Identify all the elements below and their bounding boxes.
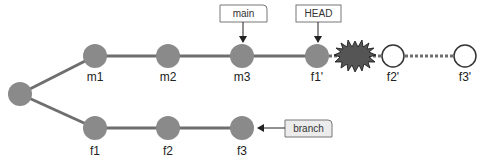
label-m1: m1 xyxy=(87,70,104,84)
ref-tag-head: HEAD xyxy=(296,5,341,42)
commit-root xyxy=(8,82,32,106)
ref-tag-branch: branch xyxy=(258,120,332,137)
commit-f3-prime-pending xyxy=(454,45,476,67)
commit-f2-prime-pending xyxy=(382,45,404,67)
commit-m2 xyxy=(156,44,180,68)
git-rebase-diagram: m1 m2 m3 f1' f2' f3' f1 f2 f3 main HEAD … xyxy=(0,0,480,168)
ref-tag-main-text: main xyxy=(233,8,255,19)
commit-f1-prime xyxy=(305,44,329,68)
ref-tag-branch-text: branch xyxy=(293,123,324,134)
conflict-starburst-icon xyxy=(334,40,376,72)
commits xyxy=(8,44,476,140)
label-m2: m2 xyxy=(160,70,177,84)
commit-m1 xyxy=(83,44,107,68)
edge-root-m1 xyxy=(20,56,95,94)
ref-tag-main: main xyxy=(220,5,267,42)
commit-m3 xyxy=(230,44,254,68)
label-f2-prime: f2' xyxy=(387,70,399,84)
label-f3-prime: f3' xyxy=(459,70,471,84)
commit-labels: m1 m2 m3 f1' f2' f3' f1 f2 f3 xyxy=(87,70,471,158)
label-m3: m3 xyxy=(234,70,251,84)
label-f2: f2 xyxy=(163,144,173,158)
label-f3: f3 xyxy=(237,144,247,158)
commit-f3 xyxy=(230,116,254,140)
edge-root-f1 xyxy=(20,94,95,128)
label-f1: f1 xyxy=(90,144,100,158)
commit-f1 xyxy=(83,116,107,140)
commit-f2 xyxy=(156,116,180,140)
edges xyxy=(20,56,453,128)
ref-tag-head-text: HEAD xyxy=(305,8,333,19)
label-f1-prime: f1' xyxy=(311,70,323,84)
